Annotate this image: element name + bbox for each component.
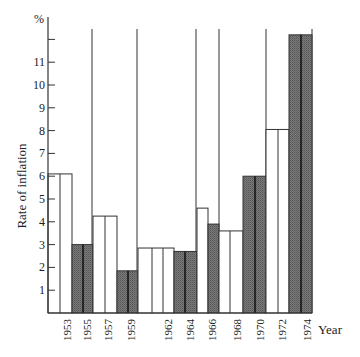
y-tick-label: 6 — [39, 169, 45, 183]
x-tick-label: 1957 — [102, 319, 114, 342]
x-tick-label: 1964 — [184, 319, 196, 342]
x-tick-label: 1966 — [206, 319, 218, 342]
bar-1966a — [197, 208, 208, 313]
y-tick-label: 1 — [39, 283, 45, 297]
y-tick-label: 4 — [39, 215, 45, 229]
y-unit-label: % — [34, 12, 44, 26]
x-axis-title: Year — [318, 322, 343, 337]
inflation-bar-chart: 1234567891011 19531955195719591962196419… — [0, 0, 360, 357]
x-tick-label: 1953 — [61, 319, 73, 342]
x-tick-label: 1972 — [276, 319, 288, 341]
y-tick-label: 5 — [39, 192, 45, 206]
bar-1966b — [208, 224, 219, 313]
x-tick-label: 1955 — [81, 319, 93, 342]
x-tick-label: 1970 — [254, 319, 266, 342]
x-axis-labels: 1953195519571959196219641966196819701972… — [61, 319, 313, 342]
y-tick-label: 11 — [33, 55, 45, 69]
y-tick-label: 8 — [39, 124, 45, 138]
y-tick-label: 9 — [39, 101, 45, 115]
y-tick-label: 3 — [39, 238, 45, 252]
x-tick-label: 1962 — [162, 319, 174, 341]
y-axis-title: Rate of inflation — [14, 143, 29, 229]
y-tick-label: 2 — [39, 260, 45, 274]
y-tick-label: 10 — [33, 78, 45, 92]
y-tick-label: 7 — [39, 146, 45, 160]
bars-group — [48, 35, 312, 313]
x-tick-label: 1968 — [231, 319, 243, 342]
bar-1962 — [138, 248, 174, 313]
x-tick-label: 1959 — [125, 319, 137, 342]
x-tick-label: 1974 — [301, 319, 313, 342]
bar-1968 — [219, 231, 243, 313]
